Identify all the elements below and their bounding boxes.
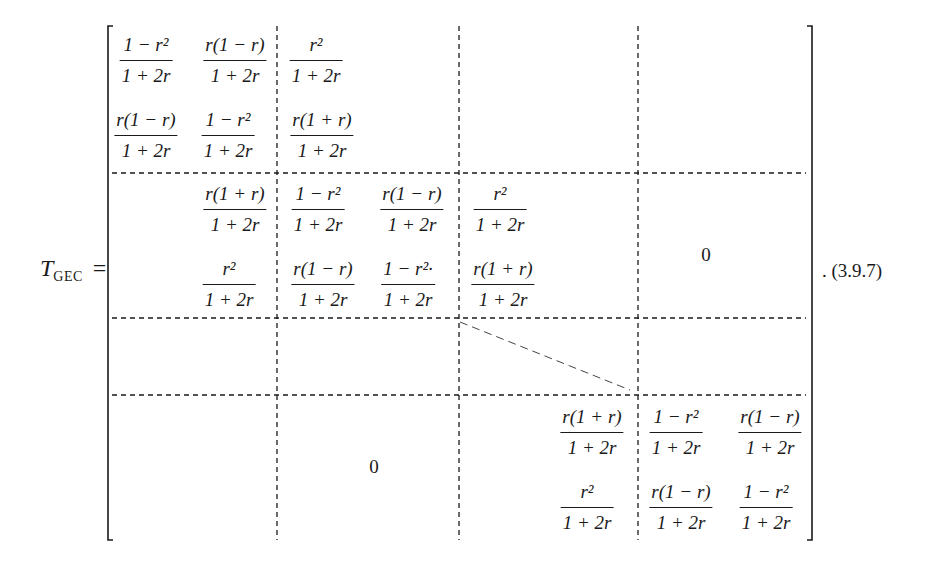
lhs-subscript: GEC xyxy=(53,269,83,284)
zero-block-upper-right: 0 xyxy=(701,244,711,266)
matrix-entry: r²1 + 2r xyxy=(290,35,343,85)
matrix-entry: 1 − r²1 + 2r xyxy=(292,184,345,234)
matrix-entry: r(1 + r)1 + 2r xyxy=(471,259,534,309)
matrix-entry: r(1 − r)1 + 2r xyxy=(380,184,443,234)
matrix-entry: 1 − r²1 + 2r xyxy=(120,35,173,85)
matrix-entry: 1 − r²1 + 2r xyxy=(202,110,255,160)
matrix-entry: r(1 + r)1 + 2r xyxy=(560,407,623,457)
matrix-entry: r(1 − r)1 + 2r xyxy=(738,407,801,457)
equation-number: . (3.9.7) xyxy=(822,260,882,282)
matrix-entry: r(1 − r)1 + 2r xyxy=(649,482,712,532)
matrix-entry: r(1 − r)1 + 2r xyxy=(203,35,266,85)
matrix-entry: r²1 + 2r xyxy=(474,184,527,234)
right-bracket xyxy=(807,26,812,540)
lhs-symbol: T xyxy=(40,255,53,281)
matrix-entry: r²1 + 2r xyxy=(203,259,256,309)
matrix-entry: r(1 + r)1 + 2r xyxy=(290,110,353,160)
diagonal-ellipsis-line xyxy=(460,322,630,390)
matrix-entry: r(1 − r)1 + 2r xyxy=(291,259,354,309)
left-bracket xyxy=(108,26,113,540)
lhs-label: TGEC = xyxy=(40,255,106,282)
matrix-entry: r(1 + r)1 + 2r xyxy=(203,184,266,234)
matrix-entry: 1 − r²1 + 2r xyxy=(740,482,793,532)
zero-block-lower-left: 0 xyxy=(369,456,379,478)
matrix-entry: r(1 − r)1 + 2r xyxy=(114,110,177,160)
matrix-entry: 1 − r²1 + 2r xyxy=(650,407,703,457)
matrix-entry: r²1 + 2r xyxy=(561,482,614,532)
equals-sign: = xyxy=(93,255,107,281)
matrix-entry: 1 − r²·1 + 2r xyxy=(381,259,435,309)
